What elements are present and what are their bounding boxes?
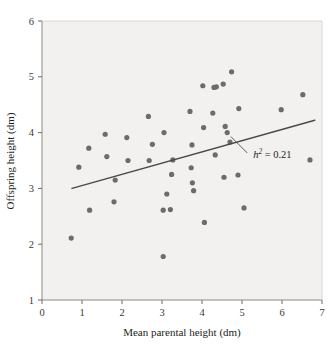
x-tick-label: 0: [39, 307, 44, 318]
plot-background: [42, 21, 322, 300]
data-point: [191, 188, 196, 193]
data-point: [103, 132, 108, 137]
data-point: [241, 205, 246, 210]
y-axis-ticks: [38, 21, 42, 300]
chart-canvas: 01234567 123456 h2 = 0.21 Mean parental …: [0, 0, 335, 348]
data-point: [201, 125, 206, 130]
data-point: [189, 165, 194, 170]
data-point: [221, 81, 226, 86]
data-point: [187, 109, 192, 114]
x-tick-label: 3: [159, 307, 164, 318]
data-point: [164, 191, 169, 196]
data-point: [202, 220, 207, 225]
data-point: [223, 124, 228, 129]
y-tick-label: 4: [29, 127, 35, 138]
data-point: [69, 235, 74, 240]
data-point: [76, 165, 81, 170]
data-point: [146, 114, 151, 119]
x-axis-tick-labels: 01234567: [39, 307, 324, 318]
x-tick-label: 1: [79, 307, 84, 318]
data-point: [200, 83, 205, 88]
y-tick-label: 1: [29, 295, 34, 306]
data-point: [124, 135, 129, 140]
data-point: [87, 208, 92, 213]
x-tick-label: 5: [239, 307, 244, 318]
x-tick-label: 6: [279, 307, 284, 318]
data-point: [104, 154, 109, 159]
data-point: [161, 208, 166, 213]
y-tick-label: 3: [29, 183, 34, 194]
data-point: [229, 69, 234, 74]
x-tick-label: 4: [199, 307, 205, 318]
data-point: [210, 110, 215, 115]
data-point: [86, 146, 91, 151]
x-tick-label: 7: [319, 307, 324, 318]
data-point: [161, 130, 166, 135]
y-tick-label: 2: [29, 239, 34, 250]
data-point: [189, 142, 194, 147]
data-point: [169, 172, 174, 177]
data-point: [150, 142, 155, 147]
data-point: [300, 92, 305, 97]
scatter-plot-figure: 01234567 123456 h2 = 0.21 Mean parental …: [0, 0, 335, 348]
data-point: [125, 158, 130, 163]
x-tick-label: 2: [119, 307, 124, 318]
x-axis-ticks: [42, 300, 322, 304]
data-point: [147, 158, 152, 163]
data-point: [307, 157, 312, 162]
data-point: [111, 199, 116, 204]
data-point: [225, 130, 230, 135]
data-point: [236, 106, 241, 111]
data-point: [279, 107, 284, 112]
data-point: [190, 180, 195, 185]
data-point: [235, 172, 240, 177]
data-point: [168, 207, 173, 212]
y-axis-tick-labels: 123456: [29, 16, 35, 306]
data-point: [161, 254, 166, 259]
x-axis-label: Mean parental height (dm): [123, 326, 241, 339]
data-point: [214, 84, 219, 89]
y-tick-label: 6: [29, 16, 34, 27]
data-point: [113, 177, 118, 182]
data-point: [213, 152, 218, 157]
y-axis-label: Offspring height (dm): [4, 112, 17, 209]
y-tick-label: 5: [29, 71, 34, 82]
data-point: [221, 175, 226, 180]
